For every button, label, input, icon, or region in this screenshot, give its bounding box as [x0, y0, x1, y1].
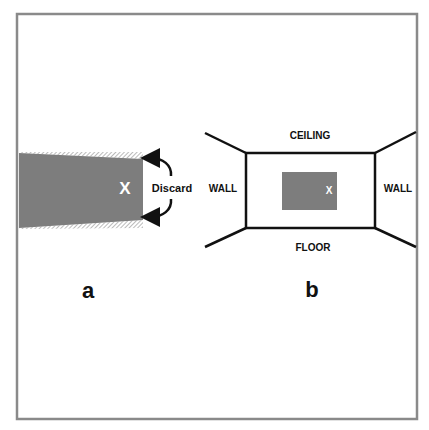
discard-label: Discard: [152, 182, 192, 194]
view-marker-b: X: [326, 185, 333, 196]
edge-top-left: [205, 133, 246, 153]
edge-top-right: [375, 132, 416, 153]
panel-b-label: b: [305, 277, 318, 302]
panel-a-label: a: [82, 278, 95, 303]
left-wall-label: WALL: [209, 183, 237, 194]
panel-a: X Discard a: [19, 152, 192, 303]
right-wall-label: WALL: [384, 183, 412, 194]
discard-arrow-bottom: [150, 199, 171, 217]
floor-label: FLOOR: [296, 242, 332, 253]
edge-bottom-right: [375, 228, 416, 247]
discard-arrow-top: [150, 158, 171, 176]
edge-bottom-left: [205, 228, 246, 247]
panel-b: X CEILING FLOOR WALL WALL b: [205, 130, 416, 302]
ceiling-label: CEILING: [290, 130, 331, 141]
view-marker-a: X: [119, 179, 131, 198]
figure: X Discard a X CEILING FLOOR WALL WALL b: [0, 0, 429, 430]
